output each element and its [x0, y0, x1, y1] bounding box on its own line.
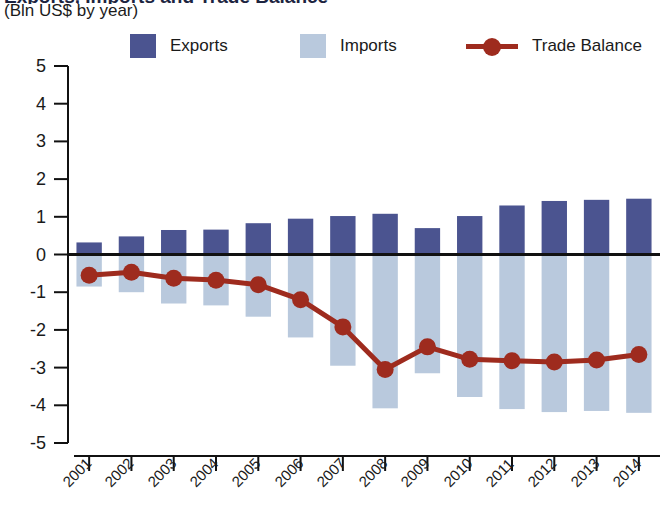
exports-bar: [330, 216, 355, 254]
exports-bar: [246, 223, 271, 254]
exports-bar: [499, 205, 524, 254]
y-axis-tick-label: 3: [12, 131, 46, 152]
trade-balance-point: [546, 353, 563, 370]
imports-bar: [499, 255, 524, 410]
y-axis-tick-label: 2: [12, 169, 46, 190]
imports-bar: [415, 255, 440, 374]
exports-bar: [542, 201, 567, 255]
imports-bar: [584, 255, 609, 411]
exports-bar: [584, 200, 609, 255]
exports-bar: [372, 214, 397, 255]
trade-balance-point: [504, 352, 521, 369]
imports-bar: [626, 255, 651, 413]
y-axis-tick-label: -5: [12, 433, 46, 454]
y-axis-tick-label: -2: [12, 319, 46, 340]
exports-bar: [76, 242, 101, 254]
trade-balance-point: [461, 351, 478, 368]
y-axis-tick-label: -1: [12, 282, 46, 303]
trade-balance-point: [419, 338, 436, 355]
plot-area: 543210-1-2-3-4-5 20012002200320042005200…: [0, 0, 670, 514]
exports-bar: [626, 199, 651, 255]
y-axis-tick-label: 0: [12, 244, 46, 265]
trade-balance-point: [208, 272, 225, 289]
plot-svg: [0, 0, 670, 514]
trade-balance-point: [588, 352, 605, 369]
trade-balance-point: [165, 270, 182, 287]
trade-balance-point: [81, 267, 98, 284]
trade-balance-point: [377, 361, 394, 378]
exports-bar: [457, 216, 482, 254]
imports-bar: [457, 255, 482, 398]
trade-balance-point: [123, 264, 140, 281]
exports-bar: [119, 236, 144, 254]
trade-balance-point: [334, 318, 351, 335]
trade-balance-point: [292, 291, 309, 308]
y-axis-tick-label: 4: [12, 93, 46, 114]
imports-bar: [372, 255, 397, 409]
y-axis-tick-label: 1: [12, 206, 46, 227]
chart-figure: Exports, Imports and Trade Balance (Bln …: [0, 0, 670, 514]
y-axis-tick-label: 5: [12, 56, 46, 77]
exports-bar: [161, 230, 186, 255]
exports-bar: [288, 219, 313, 255]
trade-balance-point: [630, 346, 647, 363]
exports-bar: [415, 228, 440, 254]
trade-balance-point: [250, 276, 267, 293]
imports-bar: [330, 255, 355, 366]
imports-bar: [542, 255, 567, 413]
y-axis-tick-label: -3: [12, 357, 46, 378]
exports-bar: [203, 230, 228, 255]
y-axis-tick-label: -4: [12, 395, 46, 416]
